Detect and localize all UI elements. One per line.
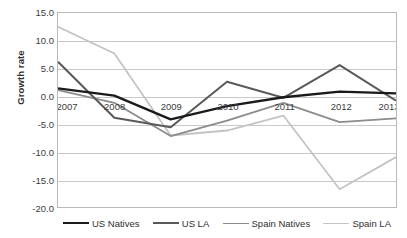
y-tick-label: -20.0 xyxy=(12,203,54,214)
y-tick-label: 5.0 xyxy=(12,63,54,74)
y-axis-tick-labels: 15.010.05.00.0-5.0-10.0-15.0-20.0 xyxy=(12,12,54,208)
legend-color-swatch xyxy=(323,223,349,224)
y-tick-label: -10.0 xyxy=(12,147,54,158)
legend-label: Spain Natives xyxy=(252,218,311,229)
series-line xyxy=(58,88,396,119)
y-tick-label: -15.0 xyxy=(12,175,54,186)
legend-label: US LA xyxy=(182,218,209,229)
legend-item[interactable]: Spain Natives xyxy=(223,218,311,229)
y-tick-label: 10.0 xyxy=(12,35,54,46)
series-line xyxy=(58,27,396,189)
legend-color-swatch xyxy=(63,222,89,224)
y-tick-label: 0.0 xyxy=(12,91,54,102)
chart-legend: US NativesUS LASpain NativesSpain LA xyxy=(57,213,397,233)
legend-color-swatch xyxy=(223,223,249,224)
legend-color-swatch xyxy=(153,222,179,224)
growth-rate-line-chart: Growth rate 15.010.05.00.0-5.0-10.0-15.0… xyxy=(0,0,407,238)
series-lines xyxy=(58,13,396,207)
legend-label: Spain LA xyxy=(352,218,391,229)
legend-item[interactable]: Spain LA xyxy=(323,218,391,229)
legend-label: US Natives xyxy=(92,218,140,229)
legend-item[interactable]: US LA xyxy=(153,218,209,229)
legend-item[interactable]: US Natives xyxy=(63,218,140,229)
y-tick-label: 15.0 xyxy=(12,7,54,18)
y-tick-label: -5.0 xyxy=(12,119,54,130)
plot-area: 2007200820092010201120122013 xyxy=(57,12,397,208)
